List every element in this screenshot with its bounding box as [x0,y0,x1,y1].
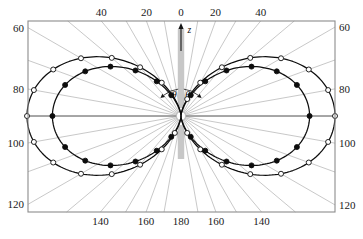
axis-label-left-2: 100 [8,137,25,149]
polar-distribution-figure: zθθ4020020401401601801601406080100120608… [0,0,363,239]
data-point-inner [154,148,159,153]
axis-label-left-0: 60 [13,22,25,34]
axis-label-bottom-1: 160 [138,215,155,227]
data-point-outer [25,114,30,119]
axis-label-top-1: 20 [141,6,153,18]
polar-plot-canvas: zθθ4020020401401601801601406080100120608… [0,0,363,239]
data-point-outer [198,80,203,85]
data-point-inner [274,158,279,163]
data-point-inner [203,148,208,153]
data-point-inner [108,163,113,168]
axis-label-top-4: 40 [255,6,267,18]
data-point-inner [307,114,312,119]
data-point-inner [83,158,88,163]
data-point-outer [31,88,36,93]
data-point-outer [51,160,56,165]
data-point-outer [306,160,311,165]
data-point-outer [159,147,164,152]
data-point-outer [159,80,164,85]
data-point-outer [109,55,114,60]
axis-label-left-1: 80 [13,83,25,95]
radial-gridline [181,116,335,172]
data-point-inner [169,134,174,139]
data-point-outer [51,67,56,72]
sample-holder-lower [178,125,184,159]
data-point-inner [224,68,229,73]
data-point-inner [83,69,88,74]
data-point-inner [274,69,279,74]
axis-label-top-0: 40 [96,6,108,18]
data-point-outer [138,162,143,167]
data-point-inner [294,82,299,87]
data-point-outer [109,172,114,177]
data-point-outer [306,67,311,72]
data-point-inner [154,79,159,84]
data-point-inner [133,68,138,73]
data-point-outer [279,56,284,61]
data-point-inner [188,134,193,139]
data-point-inner [188,93,193,98]
axis-label-right-0: 60 [339,21,351,33]
data-point-outer [78,56,83,61]
data-point-inner [108,64,113,69]
axis-label-top-3: 20 [210,6,222,18]
axis-label-bottom-4: 140 [253,215,270,227]
axis-label-right-2: 100 [339,137,356,149]
data-point-inner [63,145,68,150]
axis-label-bottom-3: 160 [208,215,225,227]
z-axis-label: z [187,25,192,35]
data-point-outer [248,172,253,177]
axis-label-bottom-0: 140 [92,215,109,227]
z-axis-arrowhead [178,23,183,29]
data-point-outer [326,139,331,144]
data-point-outer [138,65,143,70]
axis-label-right-3: 120 [339,199,356,211]
axis-label-left-3: 120 [8,198,25,210]
data-point-outer [326,88,331,93]
data-point-outer [279,171,284,176]
data-point-outer [219,65,224,70]
data-point-inner [249,64,254,69]
data-point-outer [78,171,83,176]
data-point-inner [294,145,299,150]
data-point-inner [169,93,174,98]
data-point-outer [198,147,203,152]
radial-gridline [181,60,335,116]
axis-label-top-2: 0 [178,6,184,18]
data-point-inner [63,82,68,87]
data-point-outer [248,55,253,60]
data-point-inner [203,79,208,84]
data-point-inner [133,159,138,164]
data-point-inner [224,159,229,164]
axis-label-right-1: 80 [339,83,351,95]
axis-label-bottom-2: 180 [173,215,190,227]
data-point-outer [31,139,36,144]
data-point-inner [50,114,55,119]
data-point-inner [249,163,254,168]
data-point-outer [219,162,224,167]
